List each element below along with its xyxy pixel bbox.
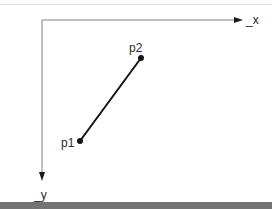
segment-group — [80, 58, 141, 141]
y-axis-group: _y — [33, 20, 47, 202]
point-p2-label: p2 — [129, 41, 143, 55]
point-p2-group: p2 — [129, 41, 144, 61]
point-p2-marker — [138, 55, 144, 61]
segment-p1-p2 — [80, 58, 141, 141]
y-axis-label: _y — [33, 188, 47, 202]
x-axis-label: _x — [245, 13, 259, 27]
coordinate-diagram-figure: _x _y p1 p2 — [0, 0, 272, 209]
point-p1-group: p1 — [61, 136, 83, 150]
diagram-canvas: _x _y p1 p2 — [0, 0, 272, 209]
x-axis-group: _x — [42, 13, 259, 27]
point-p1-marker — [77, 138, 83, 144]
point-p1-label: p1 — [61, 136, 75, 150]
bottom-gray-band — [0, 202, 272, 209]
